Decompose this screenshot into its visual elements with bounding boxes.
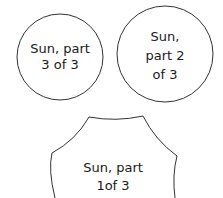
piece-label-line2: 1of 3 [96, 178, 129, 193]
piece-label-line1: Sun, part [30, 41, 90, 56]
piece-label-line1: Sun, part [83, 160, 143, 175]
sun-pattern-diagram: Sun, part 3 of 3 Sun, part 2 of 3 Sun, p… [0, 0, 223, 198]
piece-label-line2: part 2 [145, 48, 184, 63]
sun-piece-part1: Sun, part 1of 3 [51, 116, 177, 198]
piece-label-line1: Sun, [151, 29, 180, 44]
sun-piece-part2: Sun, part 2 of 3 [117, 6, 213, 102]
piece-label-line2: 3 of 3 [41, 57, 78, 72]
piece-label-line3: of 3 [153, 67, 178, 82]
sun-piece-part3: Sun, part 3 of 3 [17, 14, 103, 100]
